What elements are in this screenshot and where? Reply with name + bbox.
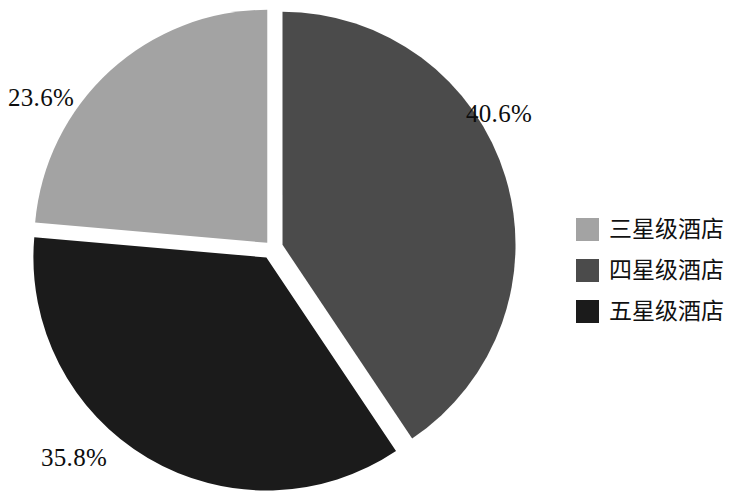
- legend-label-three-star: 三星级酒店: [609, 218, 724, 241]
- pie-label-four-star-percent: 40.6%: [466, 100, 532, 128]
- pie-chart-page: 23.6% 40.6% 35.8% 三星级酒店 四星级酒店 五星级酒店: [0, 0, 729, 500]
- pie-chart-plot-area: 23.6% 40.6% 35.8%: [0, 0, 545, 500]
- legend-item-five-star[interactable]: 五星级酒店: [576, 291, 726, 332]
- pie-slice-three-star[interactable]: [35, 10, 267, 243]
- pie-chart-svg: [0, 0, 545, 500]
- legend-item-three-star[interactable]: 三星级酒店: [576, 209, 726, 250]
- legend-item-four-star[interactable]: 四星级酒店: [576, 250, 726, 291]
- pie-label-five-star-percent: 35.8%: [41, 444, 107, 472]
- legend-label-four-star: 四星级酒店: [609, 259, 724, 282]
- legend-swatch-three-star-icon: [576, 218, 599, 241]
- legend-swatch-four-star-icon: [576, 259, 599, 282]
- pie-label-three-star-percent: 23.6%: [8, 84, 74, 112]
- chart-legend: 三星级酒店 四星级酒店 五星级酒店: [576, 209, 726, 332]
- legend-label-five-star: 五星级酒店: [609, 300, 724, 323]
- legend-swatch-five-star-icon: [576, 300, 599, 323]
